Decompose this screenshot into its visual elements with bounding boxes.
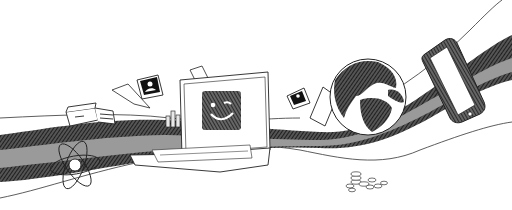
photo-card-icon bbox=[287, 88, 310, 109]
coins-icon bbox=[346, 172, 388, 192]
sketch-illustration bbox=[0, 0, 512, 210]
globe-icon bbox=[330, 59, 406, 135]
illustration-canvas bbox=[0, 0, 512, 210]
smiley-face-icon bbox=[202, 91, 241, 130]
photo-card-icon bbox=[137, 75, 163, 99]
printer-icon bbox=[66, 103, 115, 126]
